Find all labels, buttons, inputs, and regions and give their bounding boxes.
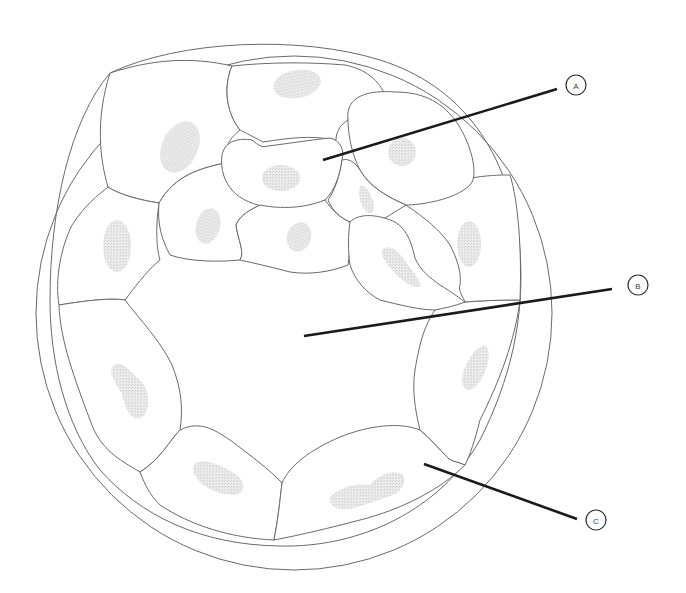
label-b-text: B	[635, 282, 640, 291]
nucleus	[388, 138, 416, 166]
nucleus	[262, 165, 300, 191]
diagram-canvas: A B C	[0, 0, 686, 593]
label-c-text: C	[593, 517, 599, 526]
label-a: A	[566, 75, 586, 95]
blastocyst-diagram: A B C	[0, 0, 686, 593]
leader-line-c	[424, 464, 577, 519]
label-a-text: A	[573, 82, 579, 91]
label-c: C	[586, 510, 606, 530]
label-b: B	[628, 275, 648, 295]
nucleus	[457, 221, 481, 267]
nucleus	[103, 220, 131, 272]
